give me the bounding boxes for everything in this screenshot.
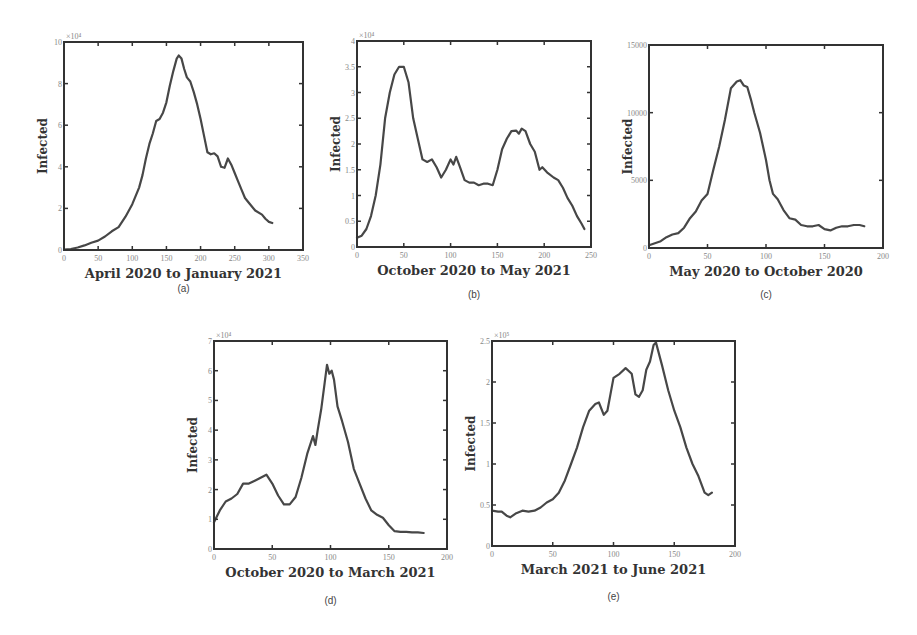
y-tick-label: 2.5 bbox=[480, 337, 490, 346]
series-line-a bbox=[64, 56, 272, 250]
y-tick-label: 2.5 bbox=[345, 114, 355, 123]
x-tick-label: 150 bbox=[819, 252, 831, 261]
axes-frame-a bbox=[64, 42, 303, 250]
x-tick-label: 300 bbox=[263, 254, 275, 263]
x-tick-label: 50 bbox=[549, 550, 557, 559]
x-tick-label: 0 bbox=[355, 251, 359, 260]
axes-frame-e bbox=[492, 341, 735, 546]
x-tick-label: 250 bbox=[229, 254, 241, 263]
y-tick-label: 0.5 bbox=[345, 217, 355, 226]
x-tick-label: 100 bbox=[126, 254, 138, 263]
y-tick-label: 2 bbox=[58, 204, 62, 213]
x-tick-label: 50 bbox=[400, 251, 408, 260]
x-tick-label: 100 bbox=[325, 553, 337, 562]
y-axis-label: Infected bbox=[329, 115, 343, 172]
x-tick-label: 0 bbox=[490, 550, 494, 559]
x-tick-label: 200 bbox=[441, 553, 453, 562]
x-tick-label: 200 bbox=[195, 254, 207, 263]
x-tick-label: 150 bbox=[160, 254, 172, 263]
y-tick-label: 0 bbox=[486, 542, 490, 551]
x-tick-label: 350 bbox=[297, 254, 309, 263]
y-tick-label: 0 bbox=[58, 246, 62, 255]
subplot-b: 05010015020025000.511.522.533.54×10⁴Octo… bbox=[329, 31, 597, 300]
y-tick-label: 1.5 bbox=[480, 419, 490, 428]
figure: 0501001502002503003500246810×10⁴April 20… bbox=[0, 0, 917, 635]
y-tick-label: 1.5 bbox=[345, 166, 355, 175]
y-tick-label: 3 bbox=[351, 89, 355, 98]
y-tick-label: 3.5 bbox=[345, 63, 355, 72]
series-line-c bbox=[649, 80, 864, 245]
y-axis-label: Infected bbox=[186, 416, 200, 473]
y-exponent-label: ×10⁴ bbox=[66, 32, 82, 41]
x-axis-label: March 2021 to June 2021 bbox=[521, 562, 707, 577]
y-tick-label: 10000 bbox=[627, 109, 647, 118]
y-tick-label: 4 bbox=[58, 163, 62, 172]
y-tick-label: 1 bbox=[351, 192, 355, 201]
subplot-e: 05010015020000.511.522.5×10⁵March 2021 t… bbox=[464, 331, 741, 602]
y-tick-label: 4 bbox=[351, 37, 355, 46]
x-tick-label: 200 bbox=[877, 252, 889, 261]
x-tick-label: 0 bbox=[62, 254, 66, 263]
x-tick-label: 100 bbox=[445, 251, 457, 260]
x-tick-label: 200 bbox=[729, 550, 741, 559]
y-exponent-label: ×10⁴ bbox=[216, 331, 232, 340]
y-tick-label: 2 bbox=[351, 140, 355, 149]
x-tick-label: 150 bbox=[668, 550, 680, 559]
x-axis-label: October 2020 to March 2021 bbox=[225, 565, 435, 580]
y-tick-label: 3 bbox=[208, 456, 212, 465]
x-tick-label: 0 bbox=[212, 553, 216, 562]
y-axis-label: Infected bbox=[621, 118, 635, 175]
y-tick-label: 5 bbox=[208, 396, 212, 405]
x-tick-label: 100 bbox=[608, 550, 620, 559]
x-axis-label: October 2020 to May 2021 bbox=[377, 263, 571, 278]
axes-frame-c bbox=[649, 45, 883, 248]
y-tick-label: 7 bbox=[208, 337, 212, 346]
y-exponent-label: ×10⁵ bbox=[494, 331, 510, 340]
panel-label: (c) bbox=[760, 289, 772, 300]
y-tick-label: 1 bbox=[208, 515, 212, 524]
y-tick-label: 8 bbox=[58, 80, 62, 89]
y-tick-label: 0 bbox=[208, 545, 212, 554]
y-tick-label: 1 bbox=[486, 460, 490, 469]
subplot-a: 0501001502002503003500246810×10⁴April 20… bbox=[36, 32, 309, 294]
x-axis-label: April 2020 to January 2021 bbox=[84, 266, 282, 281]
x-tick-label: 50 bbox=[704, 252, 712, 261]
panel-label: (a) bbox=[177, 283, 189, 294]
y-axis-label: Infected bbox=[464, 415, 478, 472]
subplot-c: 050100150200050001000015000May 2020 to O… bbox=[621, 41, 889, 300]
x-axis-label: May 2020 to October 2020 bbox=[669, 264, 863, 279]
x-tick-label: 0 bbox=[647, 252, 651, 261]
x-tick-label: 200 bbox=[538, 251, 550, 260]
x-tick-label: 50 bbox=[94, 254, 102, 263]
y-exponent-label: ×10⁴ bbox=[359, 31, 375, 40]
series-line-e bbox=[492, 343, 712, 518]
panel-label: (d) bbox=[324, 595, 336, 606]
y-tick-label: 5000 bbox=[631, 176, 647, 185]
y-tick-label: 6 bbox=[58, 121, 62, 130]
series-line-d bbox=[214, 365, 424, 533]
y-tick-label: 2 bbox=[208, 486, 212, 495]
x-tick-label: 250 bbox=[585, 251, 597, 260]
x-tick-label: 150 bbox=[491, 251, 503, 260]
x-tick-label: 50 bbox=[268, 553, 276, 562]
y-tick-label: 10 bbox=[54, 38, 62, 47]
x-tick-label: 100 bbox=[760, 252, 772, 261]
axes-frame-b bbox=[357, 41, 591, 247]
y-tick-label: 2 bbox=[486, 378, 490, 387]
series-line-b bbox=[357, 67, 584, 238]
y-tick-label: 15000 bbox=[627, 41, 647, 50]
y-tick-label: 0 bbox=[643, 244, 647, 253]
y-tick-label: 4 bbox=[208, 426, 212, 435]
y-tick-label: 6 bbox=[208, 367, 212, 376]
x-tick-label: 150 bbox=[383, 553, 395, 562]
y-tick-label: 0.5 bbox=[480, 501, 490, 510]
y-tick-label: 0 bbox=[351, 243, 355, 252]
y-axis-label: Infected bbox=[36, 117, 50, 174]
panel-label: (e) bbox=[607, 591, 619, 602]
panel-label: (b) bbox=[468, 289, 480, 300]
subplot-d: 05010015020001234567×10⁴October 2020 to … bbox=[186, 331, 453, 606]
